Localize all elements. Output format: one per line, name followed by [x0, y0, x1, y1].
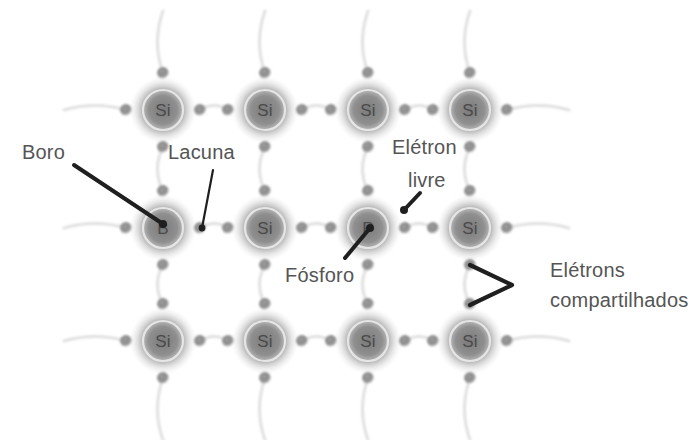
annotation-leader-dot — [366, 224, 374, 232]
bond-arc-vertical — [260, 147, 266, 191]
atom-symbol-label: Si — [257, 101, 273, 120]
bond-arc-horizontal — [507, 106, 569, 111]
valence-electron[interactable] — [157, 372, 169, 384]
annotation-label-line1: Elétrons — [550, 259, 625, 281]
valence-electron[interactable] — [399, 222, 411, 234]
bond-arc-vertical — [363, 378, 369, 440]
bond-arc-vertical — [158, 378, 164, 440]
annotation-label-line2: livre — [408, 169, 446, 191]
bond-arc-vertical — [158, 11, 164, 73]
annotation-label: Lacuna — [168, 141, 235, 163]
valence-electron[interactable] — [362, 372, 374, 384]
valence-electron[interactable] — [259, 67, 271, 79]
valence-electron[interactable] — [362, 259, 374, 271]
valence-electron[interactable] — [157, 67, 169, 79]
valence-electron[interactable] — [296, 222, 308, 234]
atom-symbol-label: Si — [257, 332, 273, 351]
bond-arc-horizontal — [64, 224, 126, 229]
valence-electron[interactable] — [222, 104, 234, 116]
valence-electron[interactable] — [501, 335, 513, 347]
atom-symbol-label: Si — [257, 219, 273, 238]
annotation-leader-line — [202, 170, 213, 228]
annotation-leader-dot — [400, 206, 408, 214]
valence-electron[interactable] — [120, 222, 132, 234]
valence-electron[interactable] — [157, 298, 169, 310]
valence-electron[interactable] — [325, 335, 337, 347]
valence-electron[interactable] — [222, 335, 234, 347]
valence-electron[interactable] — [399, 335, 411, 347]
valence-electron[interactable] — [259, 259, 271, 271]
bond-arc-vertical — [465, 11, 471, 73]
atom-symbol-label: Si — [462, 332, 478, 351]
atom-symbol-label: Si — [155, 332, 171, 351]
valence-electron[interactable] — [325, 104, 337, 116]
valence-electron[interactable] — [464, 185, 476, 197]
atom-symbol-label: Si — [155, 101, 171, 120]
diagram-canvas: SiSiSiSiBSiPSiSiSiSiSi BoroLacunaFósforo… — [0, 0, 700, 440]
valence-electron[interactable] — [194, 104, 206, 116]
atom-symbol-label: Si — [360, 101, 376, 120]
bond-arc-vertical — [363, 147, 369, 191]
bond-arc-horizontal — [64, 337, 126, 342]
valence-electron[interactable] — [362, 298, 374, 310]
valence-electron[interactable] — [120, 104, 132, 116]
valence-electron[interactable] — [194, 335, 206, 347]
valence-electron[interactable] — [464, 67, 476, 79]
valence-electron[interactable] — [501, 222, 513, 234]
annotation-label-line2: compartilhados — [550, 289, 688, 311]
lattice-svg: SiSiSiSiBSiPSiSiSiSiSi BoroLacunaFósforo… — [0, 0, 700, 440]
valence-electron[interactable] — [427, 335, 439, 347]
annotation-leader-dot — [199, 225, 206, 232]
bond-arc-horizontal — [64, 106, 126, 111]
annotation-bracket — [470, 265, 512, 305]
valence-electron[interactable] — [259, 298, 271, 310]
bond-arc-horizontal — [507, 224, 569, 229]
valence-electron[interactable] — [296, 335, 308, 347]
valence-electron[interactable] — [427, 104, 439, 116]
annotation-eletron-livre[interactable]: Elétronlivre — [392, 136, 457, 214]
bond-arc-vertical — [465, 147, 471, 191]
annotation-label: Boro — [22, 141, 65, 163]
bond-arc-vertical — [363, 11, 369, 73]
atom-symbol-label: Si — [360, 332, 376, 351]
annotation-label-line1: Elétron — [392, 136, 457, 158]
valence-electron[interactable] — [399, 104, 411, 116]
valence-electron[interactable] — [259, 141, 271, 153]
annotation-leader-line — [74, 165, 163, 224]
bond-arc-vertical — [158, 147, 164, 191]
valence-electron[interactable] — [464, 141, 476, 153]
valence-electron[interactable] — [120, 335, 132, 347]
valence-electron[interactable] — [362, 67, 374, 79]
atom-symbol-label: Si — [462, 101, 478, 120]
valence-electron[interactable] — [427, 222, 439, 234]
valence-electron[interactable] — [296, 104, 308, 116]
bond-arc-vertical — [465, 378, 471, 440]
valence-electron[interactable] — [259, 372, 271, 384]
valence-electron[interactable] — [157, 259, 169, 271]
valence-electron[interactable] — [464, 372, 476, 384]
bond-arc-vertical — [260, 11, 266, 73]
annotation-eletrons-compartilhados[interactable]: Elétronscompartilhados — [470, 259, 688, 311]
valence-electron[interactable] — [259, 185, 271, 197]
valence-electron[interactable] — [325, 222, 337, 234]
valence-electron[interactable] — [157, 185, 169, 197]
bond-arc-vertical — [260, 378, 266, 440]
valence-electron[interactable] — [501, 104, 513, 116]
valence-electron[interactable] — [362, 185, 374, 197]
valence-electron[interactable] — [222, 222, 234, 234]
annotation-label: Fósforo — [285, 264, 354, 286]
bond-arc-horizontal — [507, 337, 569, 342]
annotation-leader-dot — [159, 220, 167, 228]
valence-electron[interactable] — [362, 141, 374, 153]
atom-symbol-label: Si — [462, 219, 478, 238]
atom-glow-group — [129, 76, 504, 375]
